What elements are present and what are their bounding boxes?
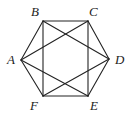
vertex-label-A: A: [7, 53, 15, 66]
edge-group: [21, 21, 109, 96]
vertex-label-C: C: [89, 5, 98, 18]
vertex-label-D: D: [115, 53, 124, 66]
vertex-label-B: B: [31, 5, 39, 18]
hexagon-star-drawing: [0, 0, 130, 117]
vertex-label-F: F: [30, 99, 38, 112]
chord-E-A: [21, 60, 88, 96]
geometry-figure: A B C D E F: [0, 0, 130, 117]
vertex-label-E: E: [90, 99, 98, 112]
